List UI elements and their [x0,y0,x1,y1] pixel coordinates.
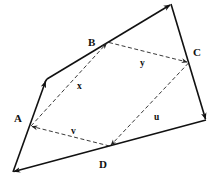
vector-label-y: y [140,58,145,68]
vector-label-v: v [71,126,76,136]
vector-x-arrow [31,44,107,127]
vector-label-u: u [154,112,160,122]
edge-bottomleft-to-kink [13,82,46,173]
vector-u-arrow [111,63,189,145]
point-label-b: B [88,36,96,48]
edge-top-to-right [171,4,206,119]
edge-kink-segment [45,79,47,82]
vector-label-x: x [77,81,82,91]
point-label-a: A [14,112,22,124]
edge-kink-to-top [47,5,170,79]
outer-quadrilateral [13,4,206,172]
point-label-c: C [193,46,201,58]
vector-diagram: A B C D x y u v [0,0,216,181]
point-label-d: D [99,158,107,170]
vector-y-arrow [109,43,187,63]
edge-right-to-bottomleft [14,120,206,172]
